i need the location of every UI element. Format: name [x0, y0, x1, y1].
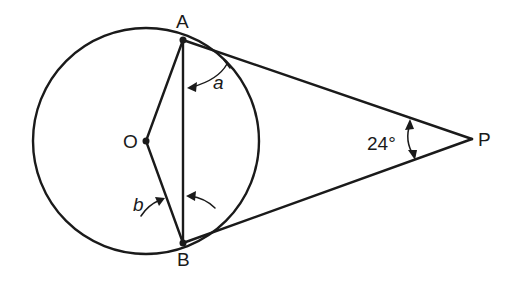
radius-oa: [146, 40, 183, 141]
tangent-pa: [183, 40, 472, 139]
angle-b-arrow: [141, 200, 160, 216]
label-p: P: [478, 129, 491, 150]
label-a: A: [176, 11, 189, 32]
geometry-diagram: A B O P a b 24°: [0, 0, 515, 288]
point-o-dot: [143, 138, 150, 145]
angle-p-arrowhead-top-icon: [405, 119, 414, 130]
tangent-pb: [183, 139, 472, 243]
point-b-dot: [180, 240, 187, 247]
label-angle-b: b: [133, 194, 144, 215]
label-angle-a: a: [213, 72, 224, 93]
radius-ob: [146, 141, 183, 243]
angle-oba-arrowhead-icon: [186, 191, 196, 201]
label-angle-p: 24°: [367, 133, 396, 154]
label-b: B: [177, 249, 190, 270]
point-a-dot: [180, 37, 187, 44]
angle-a-arrowhead-icon: [187, 82, 197, 92]
label-o: O: [123, 131, 138, 152]
